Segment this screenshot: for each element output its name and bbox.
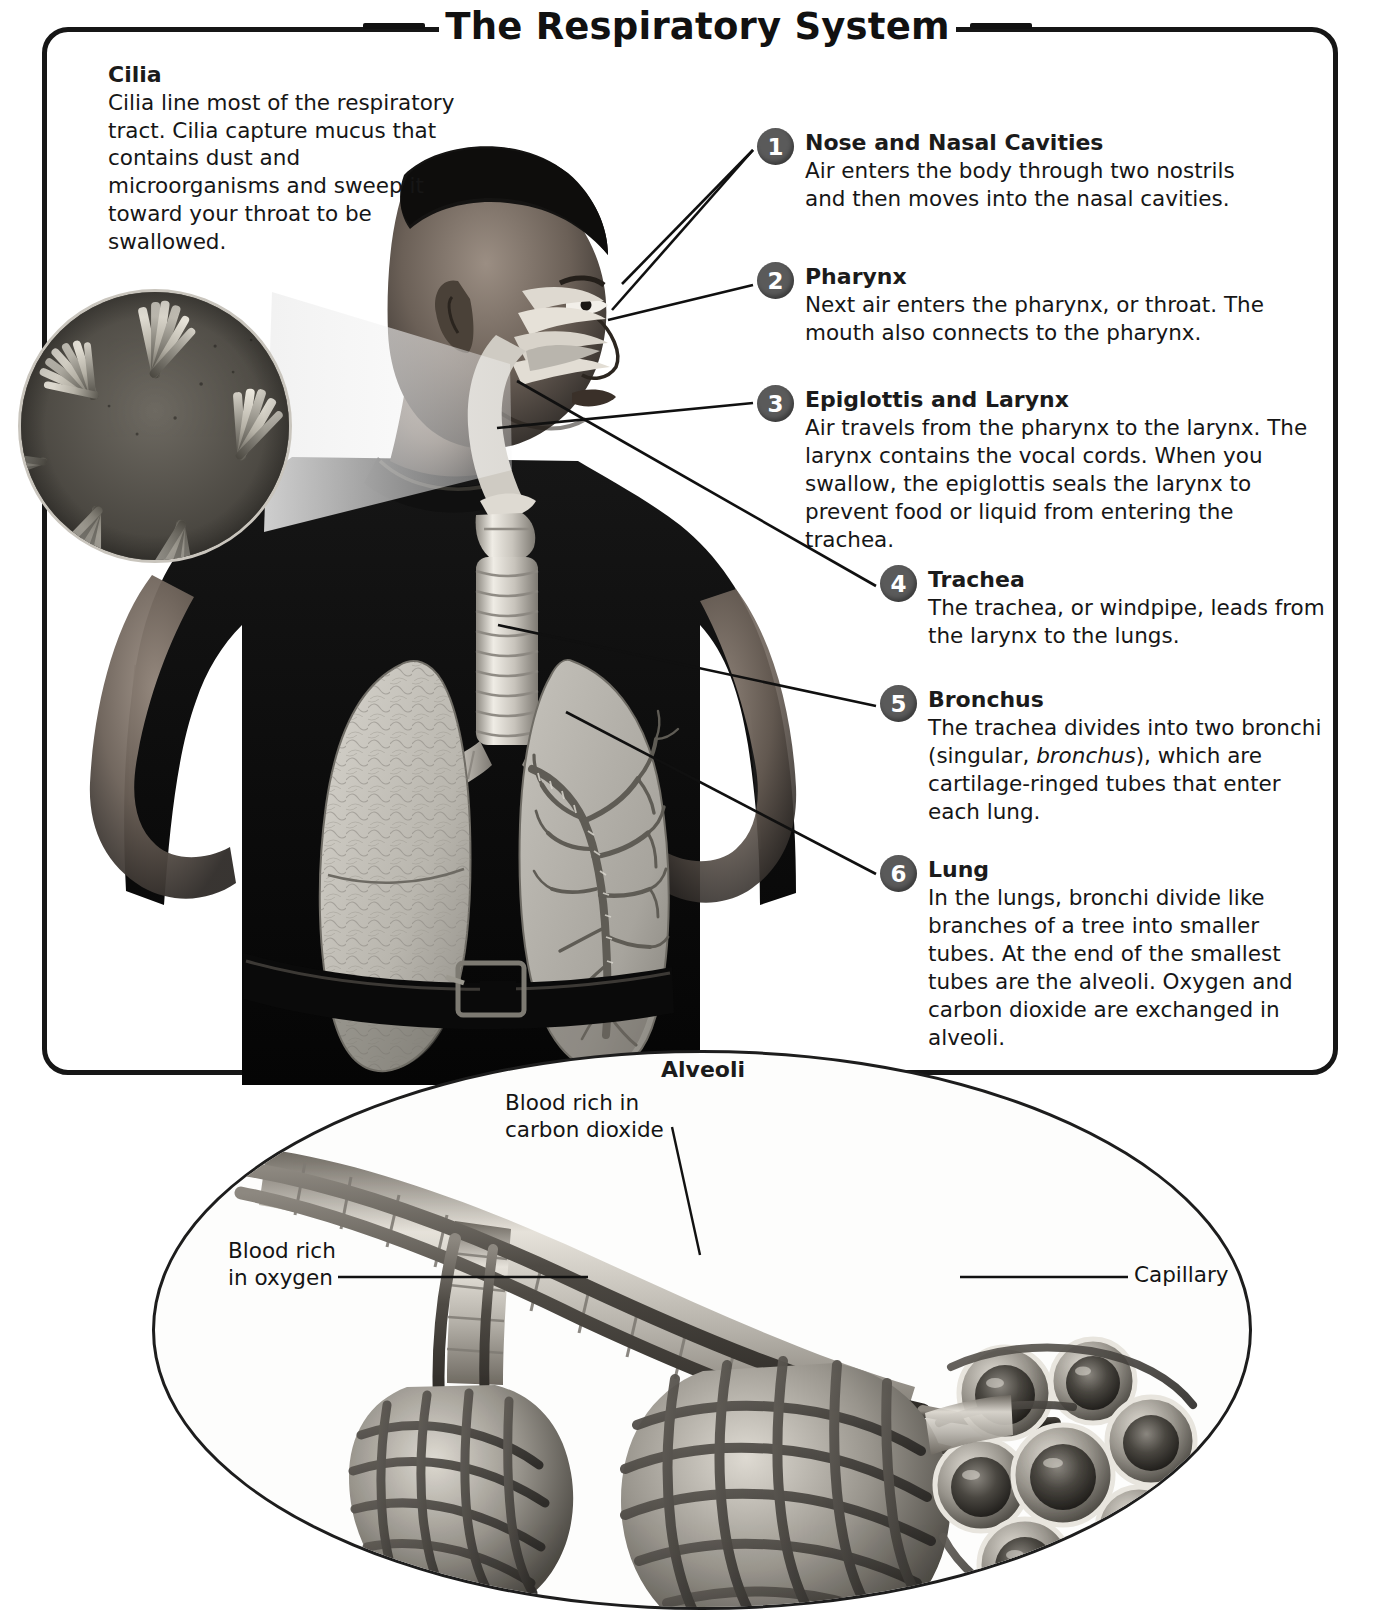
alveoli-title: Alveoli <box>661 1057 745 1082</box>
callout-2-heading: Pharynx <box>805 264 907 289</box>
cilia-heading: Cilia <box>108 62 458 87</box>
cilia-body: Cilia line most of the respiratory tract… <box>108 89 458 255</box>
callout-2-body: Next air enters the pharynx, or throat. … <box>805 291 1265 347</box>
alveoli-label-carbon-dioxide: Blood rich in carbon dioxide <box>505 1090 664 1143</box>
cilia-micrograph <box>18 289 292 563</box>
alveoli-detail-panel <box>152 1050 1252 1610</box>
callout-3-badge: 3 <box>757 385 794 422</box>
callout-4-badge: 4 <box>880 565 917 602</box>
alveoli-label-oxygen: Blood rich in oxygen <box>228 1238 336 1291</box>
callout-6-heading: Lung <box>928 857 989 882</box>
callout-5-body: The trachea divides into two bronchi (si… <box>928 714 1328 826</box>
callout-5-heading: Bronchus <box>928 687 1044 712</box>
alveoli-label-capillary: Capillary <box>1134 1262 1229 1289</box>
callout-4-heading: Trachea <box>928 567 1025 592</box>
cilia-callout: Cilia Cilia line most of the respiratory… <box>108 62 458 255</box>
callout-6-body: In the lungs, bronchi divide like branch… <box>928 884 1328 1052</box>
callout-5-body-italic: bronchus <box>1036 743 1136 768</box>
callout-1-heading: Nose and Nasal Cavities <box>805 130 1103 155</box>
title-rule-left <box>363 23 425 29</box>
page-title: The Respiratory System <box>439 5 955 48</box>
callout-2-badge: 2 <box>757 262 794 299</box>
callout-3-body: Air travels from the pharynx to the lary… <box>805 414 1325 554</box>
title-rule-right <box>970 23 1032 29</box>
callout-6-badge: 6 <box>880 855 917 892</box>
callout-1-badge: 1 <box>757 128 794 165</box>
diagram-canvas: The Respiratory System Cilia Cilia line … <box>0 0 1395 1611</box>
callout-4-body: The trachea, or windpipe, leads from the… <box>928 594 1328 650</box>
callout-1-body: Air enters the body through two nostrils… <box>805 157 1275 213</box>
callout-3-heading: Epiglottis and Larynx <box>805 387 1069 412</box>
callout-5-badge: 5 <box>880 685 917 722</box>
diagram-title-bar: The Respiratory System <box>0 0 1395 52</box>
